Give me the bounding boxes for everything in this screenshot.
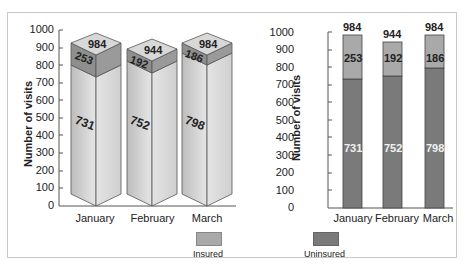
total-label: 984 — [343, 21, 361, 33]
total-label: 944 — [144, 44, 162, 56]
legend-label-uninsured: Uninsured — [304, 249, 345, 259]
bottom-segment-label: 798 — [426, 142, 444, 154]
top-segment-label: 253 — [344, 52, 362, 64]
total-label: 944 — [383, 28, 401, 40]
legend-swatch-uninsured — [313, 232, 339, 246]
x-category-label: January — [330, 212, 376, 224]
x-category-label: March — [182, 212, 232, 224]
x-category-label: February — [372, 212, 422, 224]
total-label: 984 — [199, 38, 217, 50]
right-bars — [240, 0, 465, 268]
right-stacked-chart: Number of visits 1000 900 800 700 600 50… — [240, 0, 465, 268]
left-3d-chart: Number of visits 1000 900 800 700 600 50… — [0, 0, 240, 268]
bottom-segment-label: 731 — [344, 142, 362, 154]
top-segment-label: 192 — [384, 52, 402, 64]
bar-february — [383, 42, 402, 208]
total-label: 984 — [425, 21, 443, 33]
total-label: 984 — [88, 38, 106, 50]
x-category-label: March — [418, 212, 458, 224]
bottom-segment-label: 752 — [384, 142, 402, 154]
legend-swatch-insured — [196, 232, 222, 246]
legend-label-insured: Insured — [193, 249, 223, 259]
x-category-label: January — [70, 212, 120, 224]
x-category-label: February — [125, 212, 180, 224]
top-segment-label: 186 — [426, 52, 444, 64]
